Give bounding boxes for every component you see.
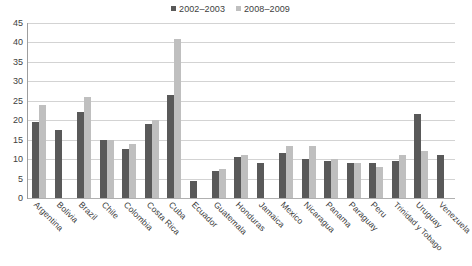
bar-group [95, 23, 117, 198]
bar-group [343, 23, 365, 198]
bar [286, 146, 293, 199]
x-label-cell: Costa Rica [140, 200, 162, 262]
bar [279, 153, 286, 198]
bar [219, 169, 226, 198]
bar-group [432, 23, 454, 198]
x-tick-label: Venezuela [437, 200, 472, 235]
x-label-cell: Honduras [230, 200, 252, 262]
bar-series-container [28, 23, 455, 198]
legend-label-2008-2009: 2008–2009 [244, 5, 290, 14]
x-label-cell: Uruguay [410, 200, 432, 262]
y-axis: 454035302520151050 [0, 20, 26, 198]
bar [152, 120, 159, 198]
bar-group [388, 23, 410, 198]
bar [122, 149, 129, 198]
x-label-cell: Brazil [73, 200, 95, 262]
x-label-cell: Argentina [28, 200, 50, 262]
legend-swatch-2008-2009 [236, 6, 241, 11]
bar [302, 159, 309, 198]
y-tick-label: 35 [13, 57, 23, 66]
bar [414, 114, 421, 198]
bar [392, 161, 399, 198]
x-label-cell: Bolivia [50, 200, 72, 262]
bar [324, 161, 331, 198]
bar [129, 144, 136, 198]
x-label-cell: Jamaica [253, 200, 275, 262]
gridline [28, 198, 455, 199]
bar [376, 167, 383, 198]
bar [399, 155, 406, 198]
bar [309, 146, 316, 199]
x-label-cell: Trinidad y Tobago [388, 200, 410, 262]
x-label-cell: Nicaragua [298, 200, 320, 262]
bar [55, 130, 62, 198]
legend-entry-2002-2003: 2002–2003 [171, 5, 225, 14]
bar [77, 112, 84, 198]
bar [167, 95, 174, 198]
bar [212, 171, 219, 198]
x-label-cell: Colombia [118, 200, 140, 262]
bar [190, 181, 197, 199]
y-tick-label: 5 [18, 174, 23, 183]
bar-group [185, 23, 207, 198]
bar-group [230, 23, 252, 198]
bar [354, 163, 361, 198]
y-tick-label: 10 [13, 155, 23, 164]
bar-group [50, 23, 72, 198]
legend-entry-2008-2009: 2008–2009 [236, 5, 290, 14]
bar-group [298, 23, 320, 198]
bar [347, 163, 354, 198]
bar [32, 122, 39, 198]
plot-area: 454035302520151050 [0, 20, 461, 202]
bar [331, 159, 338, 198]
x-tick-label: Peru [369, 200, 388, 219]
chart-legend: 2002–2003 2008–2009 [0, 1, 461, 17]
x-label-cell: Chile [95, 200, 117, 262]
bar-group [163, 23, 185, 198]
bar-group [275, 23, 297, 198]
y-tick-label: 30 [13, 77, 23, 86]
bar [100, 140, 107, 198]
bar [107, 140, 114, 198]
bar-group [118, 23, 140, 198]
bar-group [410, 23, 432, 198]
y-tick-label: 0 [18, 194, 23, 203]
x-axis: ArgentinaBoliviaBrazilChileColombiaCosta… [28, 200, 455, 262]
y-tick-label: 15 [13, 135, 23, 144]
bar-group [140, 23, 162, 198]
bar [84, 97, 91, 198]
bar-group [208, 23, 230, 198]
x-label-cell: Panama [320, 200, 342, 262]
x-label-cell: Venezuela [432, 200, 454, 262]
bar [174, 39, 181, 198]
plot-canvas [28, 23, 455, 198]
bar [39, 105, 46, 198]
y-tick-label: 20 [13, 116, 23, 125]
bar [257, 163, 264, 198]
bar-group [365, 23, 387, 198]
x-label-cell: Peru [365, 200, 387, 262]
x-label-cell: Paraguay [343, 200, 365, 262]
bar [369, 163, 376, 198]
y-tick-label: 40 [13, 38, 23, 47]
y-tick-label: 25 [13, 96, 23, 105]
x-label-cell: Ecuador [185, 200, 207, 262]
bar [421, 151, 428, 198]
bar [241, 155, 248, 198]
bar [234, 157, 241, 198]
bar [437, 155, 444, 198]
legend-swatch-2002-2003 [171, 6, 176, 11]
legend-label-2002-2003: 2002–2003 [179, 5, 225, 14]
bar [145, 124, 152, 198]
x-label-cell: Mexico [275, 200, 297, 262]
x-label-cell: Guatemala [208, 200, 230, 262]
bar-group [320, 23, 342, 198]
y-tick-label: 45 [13, 19, 23, 28]
x-label-cell: Cuba [163, 200, 185, 262]
bar-group [73, 23, 95, 198]
bar-group [253, 23, 275, 198]
bar-group [28, 23, 50, 198]
